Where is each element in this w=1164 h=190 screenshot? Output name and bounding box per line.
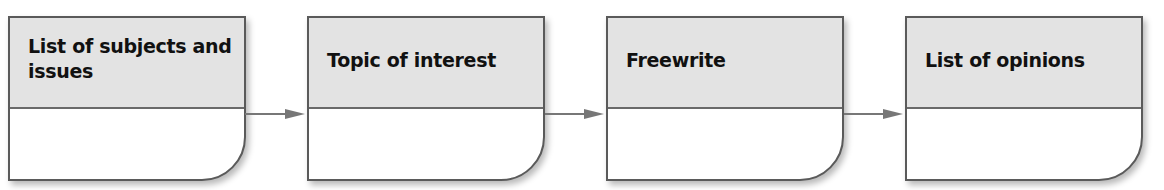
- step-header: Freewrite: [608, 18, 842, 109]
- step-box-list-of-opinions: List of opinions: [905, 16, 1143, 181]
- step-header: List of opinions: [907, 18, 1141, 109]
- step-label: Freewrite: [626, 48, 834, 73]
- step-label: Topic of interest: [327, 48, 535, 73]
- step-label: List of subjects and issues: [28, 34, 236, 84]
- arrow-right-icon: [545, 108, 606, 120]
- step-label: List of opinions: [925, 48, 1133, 73]
- step-header: List of subjects and issues: [10, 18, 244, 109]
- step-box-freewrite: Freewrite: [606, 16, 844, 181]
- arrow-right-icon: [844, 108, 905, 120]
- step-box-list-of-subjects: List of subjects and issues: [8, 16, 246, 181]
- arrow-right-icon: [245, 108, 307, 120]
- step-header: Topic of interest: [309, 18, 543, 109]
- step-box-topic-of-interest: Topic of interest: [307, 16, 545, 181]
